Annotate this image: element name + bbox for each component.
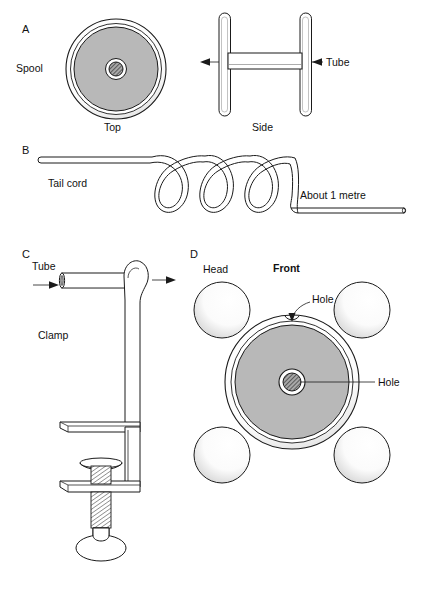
screw-foot-collar [93,528,109,541]
spool-top-view [66,19,166,119]
panel-b-letter: B [22,144,29,156]
screw-thread-upper [91,466,111,484]
spool-center-hole [109,62,123,76]
clamp-label: Clamp [38,329,69,341]
clamp-tube-bore [61,276,63,286]
head-label: Head [203,263,228,275]
tail-cord-label: Tail cord [48,177,87,189]
hole-rim-label: Hole [312,293,334,305]
clamp-tube [59,273,130,288]
clamp-tube-body [62,273,130,288]
panel-a-letter: A [22,23,30,35]
tube-label-c: Tube [32,260,56,272]
figure-root: A Spool Top Tube [0,0,423,592]
hole-center-label: Hole [378,376,400,388]
head-bottom-right [334,427,390,483]
head-top-left [194,282,250,338]
cord-length-label: About 1 metre [300,189,366,201]
side-view-label: Side [252,121,273,133]
front-label: Front [273,262,300,274]
head-top-right [334,282,390,338]
tube-label-a: Tube [326,56,350,68]
panel-c-letter: C [22,248,30,260]
top-view-label: Top [104,121,121,133]
front-spool-center-hole [283,373,301,391]
screw-thread-lower [91,492,111,528]
spool-label: Spool [16,62,43,74]
head-bottom-left [194,427,250,483]
panel-d-letter: D [190,248,198,260]
clamp-spine [125,427,140,487]
spool-tube-barrel [228,53,302,69]
